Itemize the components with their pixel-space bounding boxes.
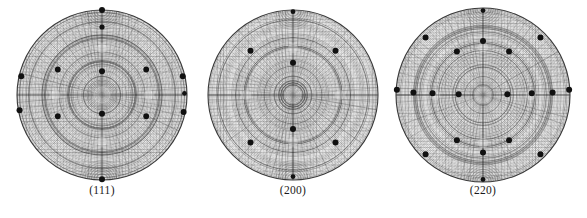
- pole-dot: [55, 67, 61, 73]
- pole-figure-111: [0, 0, 200, 186]
- pole-dot: [181, 109, 187, 115]
- pole-dot: [333, 140, 339, 146]
- pole-dot: [291, 9, 296, 14]
- pole-figure-200: [191, 0, 396, 186]
- pole-dot: [550, 89, 556, 95]
- pole-dot: [394, 87, 400, 93]
- grid-layer: [396, 0, 570, 186]
- pole-dot: [566, 87, 572, 93]
- pole-dot: [423, 35, 429, 41]
- pole-figure-220-label: (220): [433, 184, 533, 196]
- pole-dot: [410, 89, 416, 95]
- pole-dot: [248, 48, 254, 54]
- pole-dot: [99, 7, 105, 13]
- pole-dot: [529, 90, 535, 96]
- pole-figure-220: [391, 0, 587, 186]
- pole-figure-set: (111) (200) (220): [0, 0, 587, 218]
- pole-dot: [99, 176, 105, 182]
- pole-dot: [99, 24, 104, 29]
- pole-dot: [18, 73, 24, 79]
- pole-dot: [291, 174, 296, 179]
- pole-dot: [248, 140, 254, 146]
- pole-dot: [481, 8, 486, 13]
- pole-dot: [423, 151, 429, 157]
- pole-dot: [333, 48, 339, 54]
- pole-dot: [456, 91, 462, 97]
- pole-dot: [99, 68, 105, 74]
- pole-dot: [537, 35, 543, 41]
- pole-figure-220-plot: [391, 0, 587, 186]
- pole-dot: [504, 91, 510, 97]
- pole-dot: [454, 137, 460, 143]
- pole-dot: [454, 49, 460, 55]
- pole-dot: [290, 126, 296, 132]
- pole-dot: [182, 91, 187, 96]
- pole-dot: [506, 49, 512, 55]
- pole-dot: [55, 113, 61, 119]
- pole-dot: [143, 113, 149, 119]
- pole-figure-111-plot: [0, 0, 200, 186]
- pole-dot: [481, 177, 486, 182]
- pole-figure-111-label: (111): [52, 184, 152, 196]
- pole-dot: [143, 67, 149, 73]
- pole-dot: [17, 107, 23, 113]
- pole-dot: [430, 90, 436, 96]
- pole-dot: [290, 60, 296, 66]
- pole-figure-200-plot: [191, 0, 396, 186]
- grid-layer: [208, 0, 378, 186]
- pole-figure-200-label: (200): [243, 184, 343, 196]
- pole-dot: [537, 151, 543, 157]
- pole-dot: [480, 149, 486, 155]
- pole-dot: [506, 137, 512, 143]
- pole-dot: [99, 111, 105, 117]
- pole-dot: [180, 73, 186, 79]
- pole-dot: [480, 38, 486, 44]
